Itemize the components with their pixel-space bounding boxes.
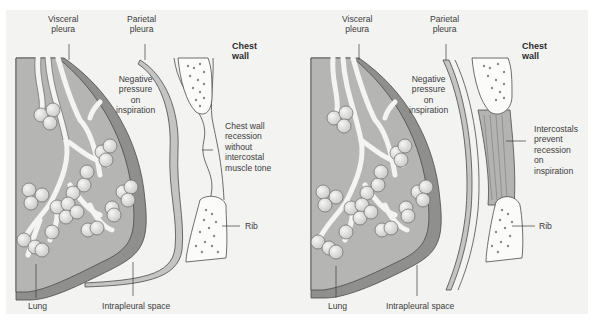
label-line: inspiration	[534, 166, 578, 176]
pleura-diagram-art	[0, 0, 596, 334]
label-intercostals-prevent-recession: Intercostals prevent recession on inspir…	[534, 124, 578, 176]
label-line: Chest	[522, 41, 547, 51]
label-negative-pressure: Negative pressure on inspiration	[409, 74, 448, 116]
label-line: Chest wall	[225, 121, 271, 131]
upper-rib	[178, 58, 212, 114]
label-line: Parietal	[430, 14, 459, 24]
label-line: pressure	[409, 84, 448, 94]
label-line: pleura	[127, 24, 156, 34]
lower-rib	[186, 196, 227, 262]
label-line: prevent	[534, 134, 578, 144]
label-parietal-pleura: Parietal pleura	[430, 14, 459, 35]
label-parietal-pleura: Parietal pleura	[127, 14, 156, 35]
label-line: without	[225, 142, 271, 152]
label-negative-pressure: Negative pressure on inspiration	[116, 74, 155, 116]
label-line: Negative	[409, 74, 448, 84]
label-intrapleural-space: Intrapleural space	[102, 301, 170, 311]
label-line: Visceral	[48, 14, 78, 24]
label-visceral-pleura: Visceral pleura	[342, 14, 372, 35]
chest-wall-outer-line	[211, 58, 224, 200]
label-line: pleura	[48, 24, 78, 34]
label-line: pressure	[116, 84, 155, 94]
label-line: muscle tone	[225, 163, 271, 173]
label-line: Parietal	[127, 14, 156, 24]
label-lung: Lung	[28, 301, 47, 311]
label-line: Negative	[116, 74, 155, 84]
label-rib: Rib	[245, 221, 258, 231]
upper-rib	[472, 58, 512, 114]
label-line: recession	[225, 131, 271, 141]
label-line: inspiration	[409, 105, 448, 115]
label-chest-wall: Chest wall	[232, 41, 257, 62]
label-chest-wall: Chest wall	[522, 41, 547, 62]
label-line: intercostal	[225, 152, 271, 162]
label-line: pleura	[430, 24, 459, 34]
label-chest-wall-recession: Chest wall recession without intercostal…	[225, 121, 271, 173]
label-line: wall	[522, 51, 547, 61]
lower-rib	[486, 197, 523, 262]
label-intrapleural-space: Intrapleural space	[386, 301, 454, 311]
label-line: on	[409, 95, 448, 105]
label-lung: Lung	[328, 301, 347, 311]
label-line: wall	[232, 51, 257, 61]
label-line: recession	[534, 145, 578, 155]
label-line: on	[116, 95, 155, 105]
label-line: Chest	[232, 41, 257, 51]
label-line: Intercostals	[534, 124, 578, 134]
label-line: Visceral	[342, 14, 372, 24]
label-rib: Rib	[539, 221, 552, 231]
label-line: pleura	[342, 24, 372, 34]
label-visceral-pleura: Visceral pleura	[48, 14, 78, 35]
label-line: inspiration	[116, 105, 155, 115]
label-line: on	[534, 155, 578, 165]
